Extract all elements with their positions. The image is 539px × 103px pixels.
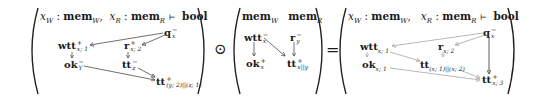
right-header-context: xW : memW, xR : memR ⊢ bool bbox=[348, 10, 519, 25]
middle-node-tt: tt+x||y bbox=[287, 58, 308, 70]
left-node-tt-mid: tt−z bbox=[122, 59, 138, 71]
left-header-context: xW : memW, xR : memR ⊢ bool bbox=[40, 10, 207, 25]
left-node-ok: ok−Y bbox=[64, 59, 84, 71]
left-node-q: q−x bbox=[164, 27, 177, 39]
left-node-r: r+x; 2 bbox=[124, 40, 141, 52]
middle-open-paren bbox=[234, 8, 240, 94]
odot-operator: ⊙ bbox=[214, 40, 227, 58]
right-node-wtt: wttx; 1 bbox=[360, 42, 389, 54]
middle-node-ok: ok+x bbox=[246, 58, 266, 70]
equals-operator: = bbox=[326, 40, 339, 59]
right-open-paren bbox=[340, 8, 346, 94]
middle-header: memW memR bbox=[242, 10, 322, 25]
left-open-paren bbox=[32, 8, 38, 94]
right-node-tt-out: tt+x; 3 bbox=[482, 74, 503, 86]
left-node-tt-out: tt+(y; 2)||(z; 1) bbox=[156, 76, 202, 88]
right-node-tt-mid: tt(x; 1)||(x; 2) bbox=[420, 60, 465, 72]
left-node-wtt: wtt+x; 1 bbox=[58, 40, 88, 52]
middle-node-r: r−y bbox=[290, 32, 302, 44]
right-node-r: rx; 2 bbox=[438, 42, 454, 54]
middle-node-wtt: wtt−x bbox=[244, 32, 268, 44]
right-node-ok: okx; 1 bbox=[362, 60, 387, 72]
right-node-q: q−x bbox=[483, 27, 496, 39]
